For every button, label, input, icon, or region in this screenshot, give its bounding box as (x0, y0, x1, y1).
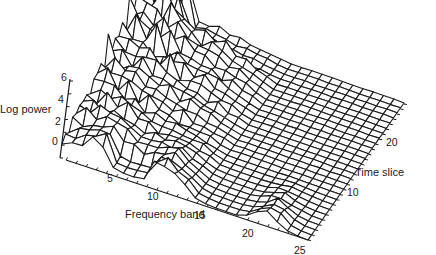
z-tick-2: 2 (55, 115, 61, 127)
y-tick-20: 20 (386, 136, 398, 148)
x-tick-20: 20 (242, 227, 254, 239)
y-tick-10: 10 (347, 186, 359, 198)
x-tick-25: 25 (294, 244, 306, 255)
z-axis-label: Log power (0, 103, 51, 115)
y-axis-label: Time slice (355, 166, 404, 178)
surface-mesh (62, 0, 404, 240)
z-tick-6: 6 (61, 71, 67, 83)
x-tick-5: 5 (107, 172, 113, 184)
z-tick-4: 4 (58, 93, 64, 105)
x-axis-label: Frequency band (125, 208, 205, 220)
x-tick-10: 10 (147, 190, 159, 202)
z-tick-0: 0 (52, 135, 58, 147)
surface-plot (0, 0, 436, 255)
x-tick-15: 15 (194, 209, 206, 221)
